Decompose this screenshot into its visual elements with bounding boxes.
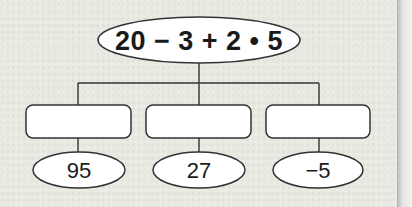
result-1-text: 95 <box>67 158 91 184</box>
step-box-1[interactable] <box>26 105 131 138</box>
root-expression-text: 20 − 3 + 2 • 5 <box>115 26 283 57</box>
result-2-text: 27 <box>187 158 211 184</box>
result-3-text: −5 <box>305 158 330 184</box>
step-box-2[interactable] <box>146 105 251 138</box>
order-of-operations-diagram: 20 − 3 + 2 • 5 95 27 −5 <box>0 0 412 207</box>
step-box-3[interactable] <box>266 105 370 138</box>
